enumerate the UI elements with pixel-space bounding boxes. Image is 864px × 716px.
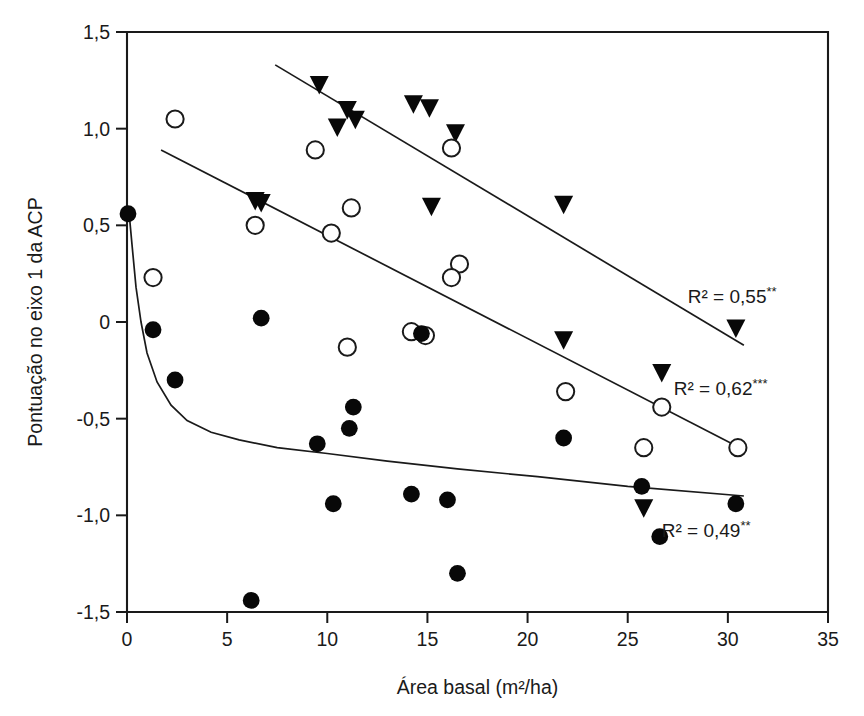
filled-circle-series-point-1 xyxy=(145,321,162,338)
y-tick-label-5: -1,0 xyxy=(76,504,110,526)
triangle-series-point-9 xyxy=(422,198,441,217)
y-tick-label-2: 0,5 xyxy=(83,214,110,236)
triangle-series-point-3 xyxy=(346,111,365,130)
open-circle-series-point-3 xyxy=(247,217,264,234)
open-circle-series-point-12 xyxy=(653,398,670,415)
filled-circle-series-point-15 xyxy=(449,565,466,582)
y-tick-label-3: 0 xyxy=(99,311,110,333)
x-tick-label-0: 0 xyxy=(122,628,133,650)
open-circle-series-point-9 xyxy=(339,339,356,356)
triangle-series-point-1 xyxy=(328,118,347,136)
x-tick-label-4: 20 xyxy=(517,628,539,650)
open-circle-series-point-11 xyxy=(557,383,574,400)
x-axis-title: Área basal (m²/ha) xyxy=(397,676,558,698)
open-circle-series-point-2 xyxy=(443,139,460,156)
data-markers xyxy=(120,76,747,609)
x-tick-label-1: 5 xyxy=(222,628,233,650)
open-circle-series-point-7 xyxy=(443,269,460,286)
open-circle-series-point-1 xyxy=(307,141,324,158)
y-tick-label-0: 1,5 xyxy=(83,21,110,43)
y-tick-label-1: 1,0 xyxy=(83,118,110,140)
y-tick-label-6: -1,5 xyxy=(76,601,110,623)
filled-circle-series-point-9 xyxy=(403,486,420,503)
open-circle-series-point-0 xyxy=(166,110,183,127)
filled-circle-series-point-12 xyxy=(633,478,650,495)
tick-labels: 1,51,00,50-0,5-1,0-1,505101520253035 xyxy=(76,21,839,650)
y-tick-label-4: -0,5 xyxy=(76,408,110,430)
filled-circle-series-point-16 xyxy=(243,592,260,609)
triangle-series-point-5 xyxy=(420,99,439,118)
r2-annotation-2: R² = 0,49** xyxy=(662,518,751,541)
filled-circle-series-point-2 xyxy=(167,372,184,389)
triangle-series-point-10 xyxy=(554,196,573,215)
open-circle-series-point-8 xyxy=(144,269,161,286)
r2-annotation-0: R² = 0,55** xyxy=(688,284,777,307)
x-tick-label-3: 15 xyxy=(417,628,439,650)
filled-circle-series-point-10 xyxy=(439,491,456,508)
x-tick-label-2: 10 xyxy=(316,628,338,650)
r2-annotation-1: R² = 0,62*** xyxy=(674,376,768,399)
triangle-series-point-12 xyxy=(652,364,671,383)
filled-circle-series-point-7 xyxy=(413,325,430,342)
triangle-series-point-14 xyxy=(634,499,653,517)
chart-annotations: R² = 0,55**R² = 0,62***R² = 0,49** xyxy=(662,284,777,541)
filled-circle-series-point-0 xyxy=(120,205,137,222)
triangle-series-point-13 xyxy=(726,320,745,339)
filled-circle-series-point-11 xyxy=(555,430,572,447)
regression-lines xyxy=(129,65,744,496)
open-circle-series-point-14 xyxy=(729,439,746,456)
open-circle-series-point-5 xyxy=(323,224,340,241)
x-tick-label-5: 25 xyxy=(617,628,639,650)
open-circle-series-point-4 xyxy=(343,199,360,216)
x-tick-label-6: 30 xyxy=(717,628,739,650)
filled-circle-series-point-13 xyxy=(727,495,744,512)
filled-circle-series-point-4 xyxy=(309,435,326,452)
lower-decay-curve xyxy=(129,212,744,496)
filled-circle-series-point-6 xyxy=(341,420,358,437)
open-circle-series-point-13 xyxy=(635,439,652,456)
plot-canvas: 1,51,00,50-0,5-1,0-1,505101520253035 R² … xyxy=(0,0,864,716)
scatter-plot-figure: 1,51,00,50-0,5-1,0-1,505101520253035 R² … xyxy=(0,0,864,716)
triangle-series-point-11 xyxy=(554,331,573,350)
filled-circle-series-point-3 xyxy=(253,310,270,327)
triangle-series-point-4 xyxy=(404,95,423,114)
triangle-series-point-0 xyxy=(310,76,329,95)
filled-circle-series-point-5 xyxy=(345,399,362,416)
y-axis-title: Pontuação no eixo 1 da ACP xyxy=(24,197,46,446)
filled-circle-series-point-8 xyxy=(325,495,342,512)
x-tick-label-7: 35 xyxy=(817,628,839,650)
